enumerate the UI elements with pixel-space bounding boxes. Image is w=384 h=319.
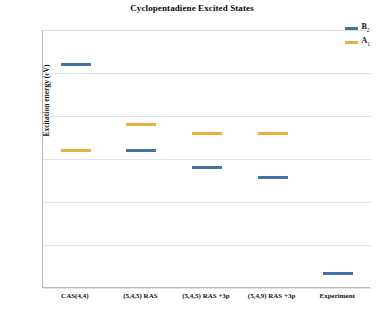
- plot-area: 55.566.577.58: [42, 30, 370, 288]
- gridline: [43, 159, 371, 160]
- data-marker-b2: [323, 272, 353, 275]
- gridline: [43, 30, 371, 31]
- data-marker-b2: [126, 149, 156, 152]
- gridline: [43, 73, 371, 74]
- chart-container: Cyclopentadiene Excited States B2 A1 Exc…: [0, 0, 384, 319]
- data-marker-b2: [258, 176, 288, 179]
- data-marker-b2: [192, 166, 222, 169]
- x-axis-tick-label: Experiment: [287, 292, 384, 300]
- data-marker-a1: [61, 149, 91, 152]
- gridline: [43, 202, 371, 203]
- gridline: [43, 288, 371, 289]
- data-marker-b2: [61, 63, 91, 66]
- gridline: [43, 116, 371, 117]
- data-marker-a1: [258, 132, 288, 135]
- data-marker-a1: [126, 123, 156, 126]
- data-marker-a1: [192, 132, 222, 135]
- gridline: [43, 245, 371, 246]
- chart-title: Cyclopentadiene Excited States: [0, 3, 384, 13]
